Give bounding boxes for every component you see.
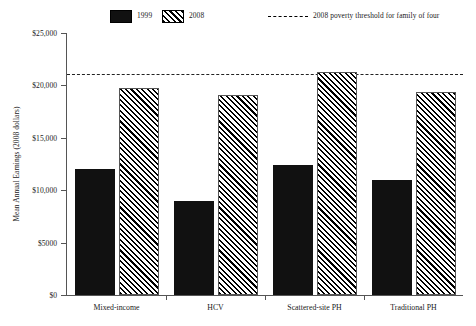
legend-label-2008: 2008 — [189, 12, 204, 19]
bar-hcv-2008 — [218, 95, 258, 295]
y-axis-tick-label: $15,000 — [32, 135, 57, 143]
legend-item-1999: 1999 — [110, 9, 152, 23]
legend-label-1999: 1999 — [137, 12, 152, 19]
x-axis-label-mixed-income: Mixed-income — [94, 304, 140, 312]
x-axis-separator-tick — [265, 295, 266, 300]
legend-item-2008: 2008 — [162, 9, 204, 23]
x-axis-separator-tick — [364, 295, 365, 300]
chart-legend: 1999 2008 2008 poverty threshold for fam… — [0, 8, 476, 28]
bar-scattered-site-ph-2008 — [317, 72, 357, 295]
legend-swatch-solid-icon — [110, 10, 132, 23]
plot-area: $0$5000$10,000$15,000$20,000$25,000Mixed… — [66, 33, 463, 296]
y-axis-tick-label: $25,000 — [32, 30, 57, 38]
legend-item-poverty-threshold: 2008 poverty threshold for family of fou… — [268, 9, 439, 23]
poverty-threshold-line — [67, 74, 463, 75]
y-axis-tick: $10,000 — [61, 190, 67, 191]
bar-mixed-income-1999 — [75, 169, 115, 295]
y-axis-tick-label: $20,000 — [32, 83, 57, 91]
legend-swatch-dashed-line-icon — [268, 16, 308, 17]
y-axis-tick-label: $5000 — [38, 240, 57, 248]
y-axis-title: Mean Annual Earnings (2008 dollars) — [9, 33, 23, 295]
legend-label-poverty-threshold: 2008 poverty threshold for family of fou… — [313, 12, 439, 19]
y-axis-tick-label: $0 — [49, 292, 57, 300]
bar-scattered-site-ph-1999 — [273, 165, 313, 295]
bar-traditional-ph-2008 — [416, 92, 456, 295]
x-axis-label-traditional-ph: Traditional PH — [390, 304, 436, 312]
bar-hcv-1999 — [174, 201, 214, 295]
x-axis-separator-tick — [166, 295, 167, 300]
legend-swatch-hatch-icon — [162, 10, 184, 23]
y-axis-tick: $15,000 — [61, 138, 67, 139]
y-axis-tick: $25,000 — [61, 33, 67, 34]
bar-traditional-ph-1999 — [372, 180, 412, 295]
y-axis-tick-label: $10,000 — [32, 187, 57, 195]
y-axis-tick: $20,000 — [61, 85, 67, 86]
x-axis-label-scattered-site-ph: Scattered-site PH — [287, 304, 341, 312]
y-axis-tick: $0 — [61, 295, 67, 296]
x-axis-label-hcv: HCV — [207, 304, 223, 312]
y-axis-tick: $5000 — [61, 243, 67, 244]
bar-mixed-income-2008 — [119, 88, 159, 296]
